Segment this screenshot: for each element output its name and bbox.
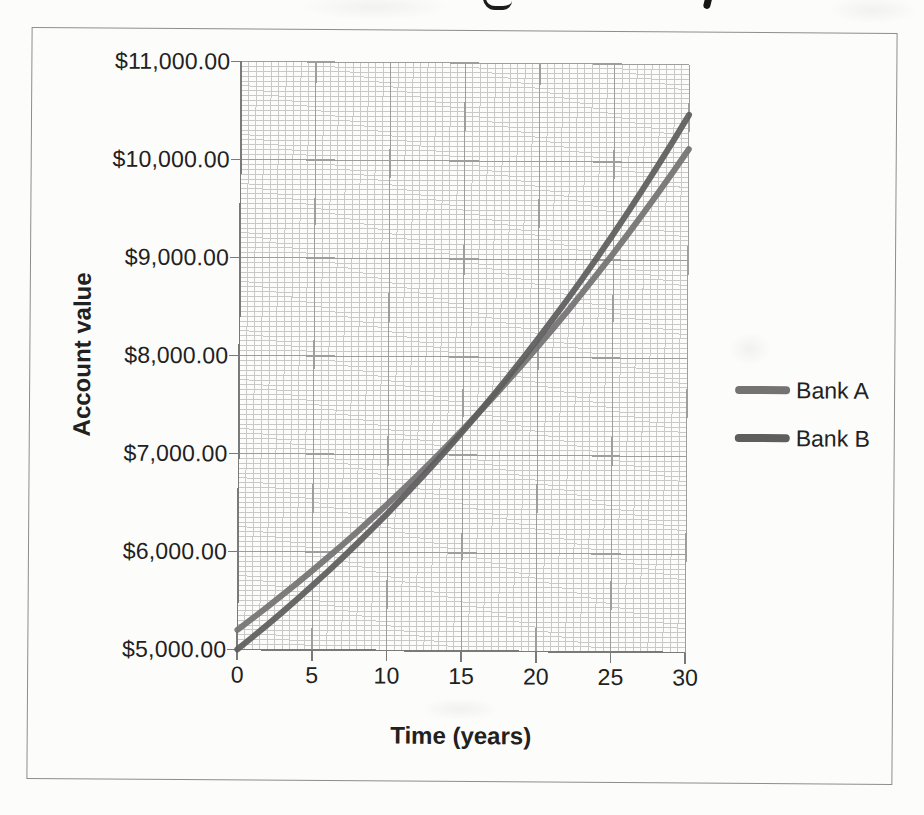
y-tick-label: $8,000.00 xyxy=(66,341,228,368)
paper-smudge xyxy=(828,0,918,24)
x-tick-label: 15 xyxy=(429,663,493,689)
scan-artifact-letter-descender xyxy=(483,0,512,10)
paper-smudge xyxy=(300,0,450,20)
y-tick-label: $6,000.00 xyxy=(65,537,227,564)
legend: Bank A Bank B xyxy=(735,379,871,476)
legend-item-bank-a: Bank A xyxy=(735,379,870,402)
figure-border-box: Account value $11,000.00 $10,000.00 $9,0… xyxy=(26,27,897,785)
scanned-page: { "figure": { "y_axis": { "title": "Acco… xyxy=(0,0,924,815)
chart-canvas xyxy=(237,61,689,652)
y-tick-label: $11,000.00 xyxy=(68,47,230,74)
legend-label-bank-b: Bank B xyxy=(796,427,870,450)
y-tick-label: $10,000.00 xyxy=(68,145,230,172)
legend-label-bank-a: Bank A xyxy=(796,379,869,402)
scan-artifact-comma xyxy=(703,0,713,10)
plot-area xyxy=(237,61,689,652)
x-tick-label: 20 xyxy=(504,663,568,689)
x-tick-label: 0 xyxy=(205,661,269,687)
x-tick-label: 25 xyxy=(578,664,642,690)
x-tick-label: 10 xyxy=(354,662,418,688)
x-axis-title: Time (years) xyxy=(237,719,685,752)
x-tick-label: 30 xyxy=(653,664,717,690)
x-tick-label: 5 xyxy=(280,662,344,688)
y-tick-label: $7,000.00 xyxy=(66,439,228,466)
y-tick-label: $5,000.00 xyxy=(64,635,226,662)
legend-swatch-bank-a xyxy=(735,386,790,394)
y-tick-label: $9,000.00 xyxy=(67,243,229,270)
legend-swatch-bank-b xyxy=(735,434,790,442)
legend-item-bank-b: Bank B xyxy=(735,427,870,450)
